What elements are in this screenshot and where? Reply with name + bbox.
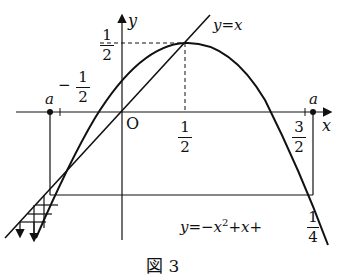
point-left-a	[47, 109, 53, 115]
parabola-label: y=−x2+x+	[180, 218, 262, 235]
right-a-label: a	[309, 92, 318, 107]
cobweb-diagram: y x O y=x a a 12 − 12 12 32 y=−x2+x+ 14 …	[0, 0, 339, 278]
line-label: y=x	[213, 18, 243, 33]
diagram-graphics	[0, 0, 339, 278]
tick-label-x-half: 12	[178, 120, 192, 155]
tick-label-y-half: 12	[100, 28, 114, 63]
origin-label: O	[126, 116, 139, 132]
y-axis-label: y	[128, 13, 137, 29]
parabola-const-fraction: 14	[307, 210, 319, 245]
tick-label-x-three-half: 32	[292, 120, 306, 155]
figure-caption: 図 3	[146, 252, 179, 277]
left-a-label: a	[45, 92, 54, 107]
neg-sign: −	[58, 78, 71, 93]
point-right-a	[310, 109, 316, 115]
x-axis-label: x	[322, 118, 331, 134]
tick-label-neg-half: 12	[76, 70, 90, 105]
